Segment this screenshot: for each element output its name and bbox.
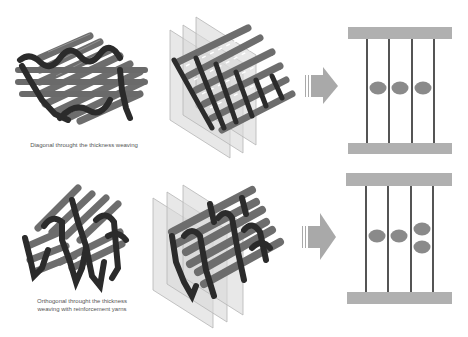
diagonal-weave-panel: Diagonal throught the thickness weaving [0, 0, 468, 168]
orthogonal-weave-panel: Orthogonal throught the thickness weavin… [0, 168, 468, 337]
arrow-right-icon [302, 213, 336, 260]
diagonal-weave-caption: Diagonal throught the thickness weaving [14, 141, 154, 149]
caption-line-1: Orthogonal throught the thickness [12, 297, 152, 305]
diagonal-schematic-icon [348, 27, 452, 154]
diagonal-weave-3d-icon [18, 34, 145, 121]
orthogonal-schematic-icon [346, 173, 452, 304]
caption-line-2: weaving with reinforcement yarns [12, 305, 152, 313]
caption-line: Diagonal throught the thickness weaving [30, 142, 138, 148]
orthogonal-weave-caption: Orthogonal throught the thickness weavin… [12, 297, 152, 313]
orthogonal-section-3d-icon [153, 185, 280, 328]
orthogonal-weave-3d-icon [25, 188, 126, 286]
arrow-right-icon [305, 67, 338, 104]
diagonal-section-3d-icon [170, 17, 292, 158]
